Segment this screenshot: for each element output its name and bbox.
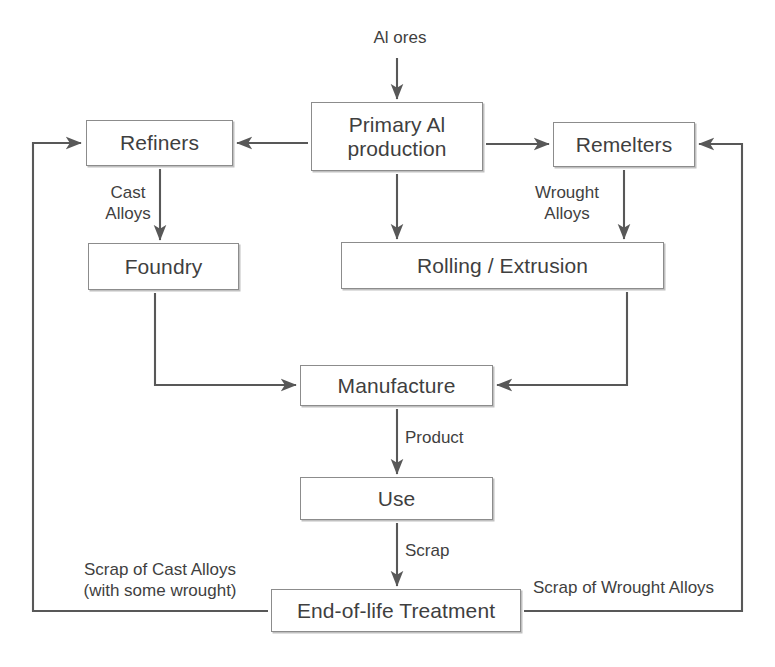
edge-label-wrought-alloys: Wrought Alloys xyxy=(512,183,622,224)
node-label: Remelters xyxy=(576,133,673,157)
node-foundry[interactable]: Foundry xyxy=(88,243,239,290)
node-label: Refiners xyxy=(120,131,199,155)
node-rolling-extrusion[interactable]: Rolling / Extrusion xyxy=(341,242,664,289)
edge-foundry-to-manufacture xyxy=(155,293,296,385)
node-label: Manufacture xyxy=(338,374,456,398)
edge-rolling-to-manufacture xyxy=(497,292,627,385)
edge-label-scrap-of-cast-alloys: Scrap of Cast Alloys (with some wrought) xyxy=(55,560,265,601)
node-remelters[interactable]: Remelters xyxy=(553,122,695,167)
edge-label-scrap-of-wrought-alloys: Scrap of Wrought Alloys xyxy=(533,578,743,599)
edge-label-scrap: Scrap xyxy=(405,541,485,562)
flowchart-diagram: Primary Al production Refiners Remelters… xyxy=(0,0,775,667)
edge-label-al-ores: Al ores xyxy=(355,28,445,49)
node-use[interactable]: Use xyxy=(300,477,493,520)
node-primary-al-production[interactable]: Primary Al production xyxy=(311,102,483,171)
node-label: Rolling / Extrusion xyxy=(417,254,588,278)
edge-label-cast-alloys: Cast Alloys xyxy=(88,183,168,224)
node-end-of-life-treatment[interactable]: End-of-life Treatment xyxy=(271,589,521,632)
node-label: Foundry xyxy=(125,255,203,279)
node-refiners[interactable]: Refiners xyxy=(86,120,233,166)
node-label: Primary Al production xyxy=(347,113,446,160)
edge-label-product: Product xyxy=(405,428,495,449)
node-manufacture[interactable]: Manufacture xyxy=(300,365,493,406)
node-label: Use xyxy=(378,487,416,511)
node-label: End-of-life Treatment xyxy=(297,599,495,623)
